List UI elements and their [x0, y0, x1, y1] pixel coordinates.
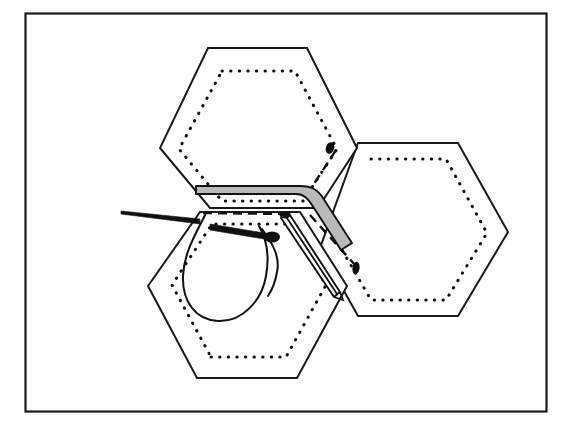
hexagon-patch-bottom	[148, 212, 347, 378]
hexagon-patch-top	[160, 48, 357, 208]
stitch-mark-seam	[280, 212, 291, 219]
illustration-canvas	[0, 0, 564, 426]
hexagon-patch-right	[320, 143, 508, 316]
needle-eye	[264, 232, 280, 243]
